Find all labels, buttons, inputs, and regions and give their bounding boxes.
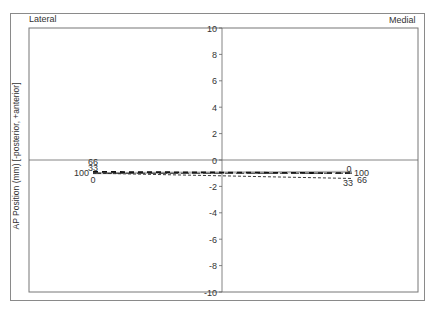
- y-tick-label: -10: [204, 288, 217, 298]
- series-end-label-left: 0: [90, 175, 95, 185]
- y-tick-label: -2: [209, 182, 217, 192]
- y-tick-label: 10: [207, 24, 217, 34]
- plot-area: 1086420-2-4-6-8-106633100001006633: [0, 0, 433, 311]
- series-end-label-right: 0: [346, 164, 351, 174]
- y-tick-label: 4: [212, 103, 217, 113]
- series-end-label-left: 100: [74, 168, 89, 178]
- y-tick-label: -8: [209, 261, 217, 271]
- y-tick-label: -6: [209, 235, 217, 245]
- y-tick-label: 8: [212, 50, 217, 60]
- y-tick-label: 0: [212, 156, 217, 166]
- series-end-label-right: 66: [357, 175, 367, 185]
- y-tick-label: 2: [212, 129, 217, 139]
- series-end-label-left: 33: [88, 163, 98, 173]
- series-end-label-right: 33: [343, 178, 353, 188]
- y-tick-label: 6: [212, 76, 217, 86]
- y-tick-label: -4: [209, 208, 217, 218]
